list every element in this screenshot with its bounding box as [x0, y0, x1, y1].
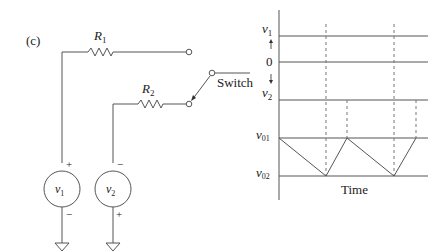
switch-label: Switch	[217, 75, 254, 90]
label-v2: v2	[262, 85, 272, 102]
switch-arm-icon	[192, 76, 210, 100]
v2-plus: +	[116, 208, 122, 220]
panel-label: (c)	[26, 33, 40, 48]
label-v1: v1	[262, 21, 272, 38]
r2-label: R2	[141, 81, 154, 98]
arrow-down-head	[269, 80, 273, 84]
label-v01: v01	[256, 127, 270, 143]
r1-label: R1	[93, 28, 106, 45]
resistor-r1-icon	[88, 48, 113, 56]
label-zero: 0	[266, 54, 273, 69]
ground-icon	[55, 243, 69, 251]
ground-icon	[106, 243, 120, 251]
arrow-up-head	[269, 39, 273, 43]
v2-minus: −	[117, 158, 123, 170]
resistor-r2-icon	[138, 100, 163, 108]
x-axis-label: Time	[341, 182, 368, 197]
label-v02: v02	[256, 165, 270, 181]
output-waveform	[279, 138, 416, 176]
circuit-and-waveform-diagram: (c) R1 R2 Switch v1 + − v2 − +	[0, 0, 446, 251]
terminal-2	[186, 101, 192, 107]
switch-pivot	[209, 70, 215, 76]
terminal-1	[186, 49, 192, 55]
waveform-plot: v1 0 v2 v01 v02 Time	[256, 10, 428, 200]
v1-plus: +	[66, 158, 72, 170]
v1-minus: −	[66, 208, 72, 220]
circuit: R1 R2 Switch v1 + − v2 − +	[44, 28, 254, 251]
